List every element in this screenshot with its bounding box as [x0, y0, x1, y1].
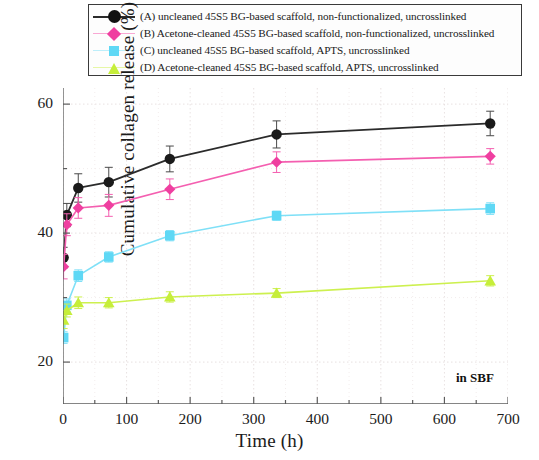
legend-label-b: (B) Acetone-cleaned 45S5 BG-based scaffo… — [140, 26, 494, 41]
x-tick-label: 700 — [488, 410, 528, 428]
data-point — [73, 202, 84, 213]
collagen-release-chart: (A) uncleaned 45S5 BG-based scaffold, no… — [0, 0, 539, 460]
x-tick-label: 600 — [424, 410, 464, 428]
x-tick-label: 200 — [170, 410, 210, 428]
y-tick-label: 20 — [21, 352, 53, 370]
data-point — [63, 261, 69, 272]
plot-area — [63, 88, 508, 404]
legend-item-a: (A) uncleaned 45S5 BG-based scaffold, no… — [93, 8, 516, 25]
legend-item-c: (C) uncleaned 45S5 BG-based scaffold, AP… — [93, 42, 516, 59]
x-tick-label: 300 — [234, 410, 274, 428]
y-tick-label: 60 — [21, 94, 53, 112]
x-tick-label: 500 — [361, 410, 401, 428]
series-D — [63, 275, 496, 328]
grid-lines — [63, 88, 508, 404]
data-point — [485, 151, 496, 162]
plot-svg — [63, 88, 508, 404]
data-point — [104, 252, 114, 262]
data-point — [485, 118, 495, 128]
legend-label-c: (C) uncleaned 45S5 BG-based scaffold, AP… — [140, 43, 409, 58]
x-tick-label: 400 — [297, 410, 337, 428]
data-point — [63, 333, 68, 343]
data-point — [271, 129, 281, 139]
data-point — [165, 154, 175, 164]
series-A — [63, 111, 495, 268]
x-tick-label: 0 — [43, 410, 83, 428]
data-point — [485, 204, 495, 214]
x-tick-label: 100 — [107, 410, 147, 428]
y-tick-label: 40 — [21, 223, 53, 241]
legend-label-d: (D) Acetone-cleaned 45S5 BG-based scaffo… — [140, 60, 439, 75]
data-point — [165, 231, 175, 241]
data-point — [164, 184, 175, 195]
legend-item-b: (B) Acetone-cleaned 45S5 BG-based scaffo… — [93, 25, 516, 42]
data-point — [73, 183, 83, 193]
error-bars-C — [63, 203, 494, 344]
data-point — [104, 177, 114, 187]
x-axis-title: Time (h) — [0, 430, 539, 452]
chart-legend: (A) uncleaned 45S5 BG-based scaffold, no… — [88, 4, 522, 76]
series-C — [63, 203, 495, 344]
legend-label-a: (A) uncleaned 45S5 BG-based scaffold, no… — [140, 9, 466, 24]
legend-item-d: (D) Acetone-cleaned 45S5 BG-based scaffo… — [93, 59, 516, 76]
data-point — [73, 271, 83, 281]
data-point — [271, 157, 282, 168]
data-point — [272, 211, 282, 221]
data-point — [63, 219, 72, 230]
data-point — [103, 200, 114, 211]
